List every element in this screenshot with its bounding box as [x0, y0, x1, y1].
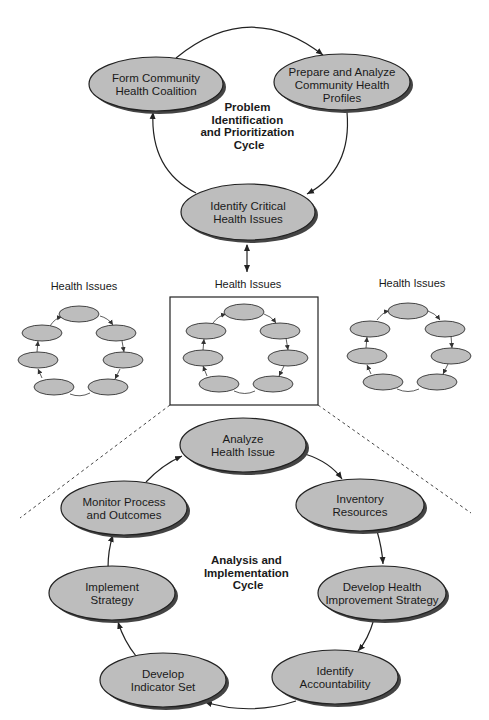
health-issues-label-left: Health Issues — [51, 280, 118, 292]
arrow-identify-to-indicators — [205, 701, 296, 709]
arrow-inventory-to-develop — [377, 531, 383, 564]
issue-node — [88, 379, 128, 395]
arrow-form-to-prepare — [176, 27, 323, 58]
community-health-improvement-diagram: Form CommunityHealth Coalition Prepare a… — [0, 0, 489, 720]
node-monitor-process: Monitor Processand Outcomes — [61, 481, 190, 538]
issue-node — [224, 304, 264, 320]
issue-node — [363, 374, 403, 390]
issue-node — [59, 306, 99, 322]
issue-node — [388, 303, 428, 319]
node-identify-critical: Identify CriticalHealth Issues — [181, 184, 318, 243]
issue-node — [186, 323, 226, 339]
arrow-develop-to-identify — [358, 619, 374, 651]
node-inventory-resources: InventoryResources — [296, 479, 427, 534]
issue-node — [18, 352, 58, 368]
issue-cluster-center — [183, 304, 308, 394]
issue-node — [34, 379, 74, 395]
issue-cluster-right — [347, 303, 471, 392]
issue-node — [425, 321, 465, 337]
node-implement-strategy: ImplementStrategy — [49, 566, 178, 623]
issue-node — [103, 352, 143, 368]
issue-node — [96, 325, 136, 341]
node-form-coalition: Form CommunityHealth Coalition — [89, 57, 226, 114]
arrow-indicators-to-implement — [118, 622, 136, 656]
issue-node — [431, 348, 471, 364]
health-issues-label-center: Health Issues — [215, 278, 282, 290]
issue-node — [260, 323, 300, 339]
issue-node — [22, 325, 62, 341]
problem-cycle-title: Problem Identification and Prioritizatio… — [200, 101, 297, 151]
arrow-monitor-to-analyze — [146, 456, 182, 482]
svg-text:ImplementStrategy: ImplementStrategy — [85, 581, 139, 606]
node-develop-strategy: Develop HealthImprovement Strategy — [318, 566, 449, 623]
svg-text:Monitor Processand Outcomes: Monitor Processand Outcomes — [82, 496, 165, 521]
node-identify-accountability: IdentifyAccountability — [272, 650, 401, 707]
issue-node — [183, 350, 223, 366]
node-develop-indicators: DevelopIndicator Set — [100, 653, 229, 710]
node-prepare-profiles: Prepare and AnalyzeCommunity HealthProfi… — [274, 54, 413, 113]
issue-cluster-left — [18, 306, 143, 396]
issue-node — [199, 376, 239, 392]
issue-node — [268, 350, 308, 366]
arrow-identify-to-form — [153, 112, 196, 193]
issue-node — [350, 321, 390, 337]
analysis-cycle-title: Analysis and Implementation Cycle — [204, 554, 292, 591]
health-issues-label-right: Health Issues — [379, 277, 446, 289]
issue-node — [347, 348, 387, 364]
analysis-implementation-cycle: AnalyzeHealth Issue InventoryResources D… — [49, 418, 449, 710]
arrow-analyze-to-inventory — [305, 454, 342, 479]
issue-node — [417, 374, 457, 390]
svg-text:InventoryResources: InventoryResources — [333, 493, 388, 518]
node-analyze-issue: AnalyzeHealth Issue — [180, 418, 309, 475]
arrow-prepare-to-identify — [307, 112, 348, 194]
problem-identification-cycle: Form CommunityHealth Coalition Prepare a… — [89, 27, 413, 243]
svg-text:Form CommunityHealth Coalition: Form CommunityHealth Coalition — [112, 72, 200, 97]
svg-text:Identify CriticalHealth Issues: Identify CriticalHealth Issues — [210, 200, 285, 225]
arrow-implement-to-monitor — [108, 535, 113, 568]
health-issues-groups: Health Issues Health Issues Health Issue… — [18, 277, 471, 405]
issue-node — [253, 376, 293, 392]
